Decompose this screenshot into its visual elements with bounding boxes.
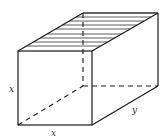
top-left-edge — [18, 13, 83, 51]
box-diagram: x x y — [0, 0, 165, 140]
front-face — [18, 51, 92, 125]
hidden-bottom-left-edge — [18, 86, 83, 125]
label-height: x — [9, 84, 14, 94]
top-right-edge — [92, 13, 158, 51]
label-depth: y — [131, 105, 138, 115]
top-face-hatching — [27, 13, 158, 46]
bottom-right-edge — [92, 86, 158, 125]
label-width: x — [51, 128, 56, 138]
